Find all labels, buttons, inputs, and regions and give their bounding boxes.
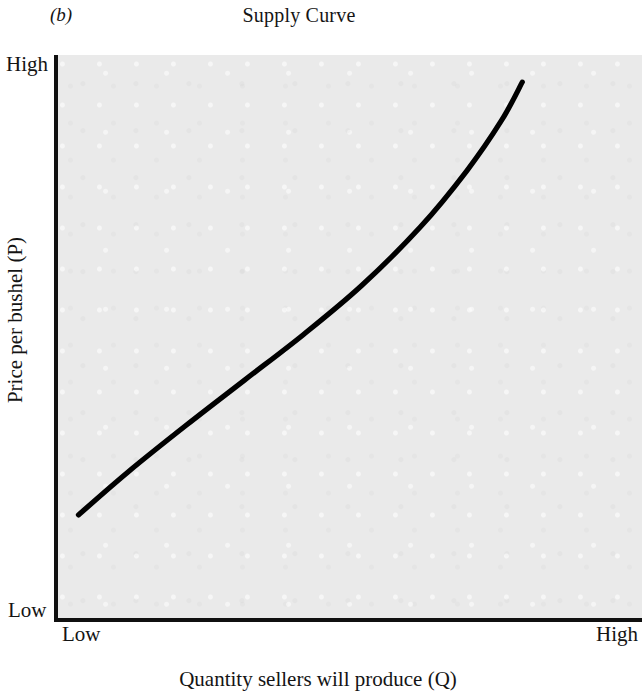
plot-area bbox=[58, 55, 642, 620]
x-axis-tick-low: Low bbox=[62, 622, 101, 646]
y-axis-line bbox=[54, 55, 58, 622]
plot-texture bbox=[58, 55, 642, 620]
x-axis-line bbox=[54, 618, 642, 622]
y-axis-tick-low: Low bbox=[8, 598, 47, 622]
chart-title: Supply Curve bbox=[0, 4, 620, 26]
y-axis-title: Price per bushel (P) bbox=[2, 170, 28, 470]
x-axis-tick-high: High bbox=[596, 622, 638, 646]
x-axis-title: Quantity sellers will produce (Q) bbox=[0, 666, 639, 692]
y-axis-tick-high: High bbox=[6, 52, 48, 76]
